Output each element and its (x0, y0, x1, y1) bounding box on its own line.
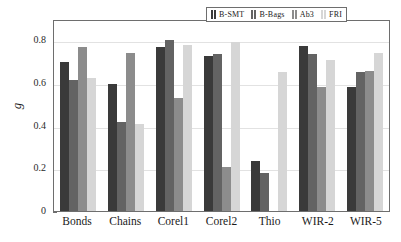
bar-group (150, 21, 198, 211)
y-tick-mark (53, 212, 57, 213)
bar[interactable] (222, 167, 231, 211)
y-tick-label: 0.6 (0, 77, 46, 88)
bar[interactable] (204, 56, 213, 211)
bar[interactable] (326, 60, 335, 211)
bar-groups (54, 21, 389, 211)
x-tick-label: WIR-2 (294, 215, 342, 227)
bar[interactable] (260, 173, 269, 211)
y-tick-label: 0.4 (0, 120, 46, 131)
bar[interactable] (78, 47, 87, 211)
plot-area (53, 20, 390, 212)
y-axis-label: g (9, 97, 25, 115)
bar[interactable] (251, 161, 260, 211)
legend-swatch-icon (292, 10, 297, 19)
legend-item: B-Bags (251, 10, 284, 19)
legend-label: Ab3 (300, 10, 314, 19)
legend-swatch-icon (211, 10, 216, 19)
legend: B-SMTB-BagsAb3FRI (206, 7, 347, 22)
bar[interactable] (165, 40, 174, 211)
y-tick-label: 0.8 (0, 34, 46, 45)
x-tick-label: Chains (101, 215, 149, 227)
bar[interactable] (174, 98, 183, 211)
bar[interactable] (87, 78, 96, 211)
legend-item: B-SMT (211, 10, 244, 19)
bar[interactable] (278, 72, 287, 211)
bar-group (293, 21, 341, 211)
y-tick-label: 0.2 (0, 162, 46, 173)
legend-swatch-icon (251, 10, 256, 19)
bar-group (198, 21, 246, 211)
bar[interactable] (60, 62, 69, 211)
bar[interactable] (213, 54, 222, 211)
bar[interactable] (69, 80, 78, 211)
bar[interactable] (126, 53, 135, 211)
legend-item: Ab3 (292, 10, 314, 19)
x-tick-label: Thio (246, 215, 294, 227)
bar[interactable] (356, 72, 365, 211)
bar[interactable] (317, 87, 326, 211)
bar[interactable] (108, 84, 117, 211)
x-tick-label: Corel1 (149, 215, 197, 227)
bar[interactable] (308, 54, 317, 211)
bar[interactable] (156, 47, 165, 211)
x-axis-tick-labels: BondsChainsCorel1Corel2ThioWIR-2WIR-5 (53, 215, 390, 227)
bar-chart-figure: g 00.20.40.60.8 BondsChainsCorel1Corel2T… (0, 0, 401, 242)
bar[interactable] (231, 42, 240, 211)
x-tick-label: Corel2 (197, 215, 245, 227)
bar-group (54, 21, 102, 211)
legend-item: FRI (321, 10, 342, 19)
legend-label: B-Bags (259, 10, 284, 19)
legend-swatch-icon (321, 10, 326, 19)
legend-label: FRI (329, 10, 342, 19)
bar[interactable] (117, 122, 126, 211)
legend-label: B-SMT (219, 10, 244, 19)
bar[interactable] (299, 46, 308, 211)
bar[interactable] (374, 53, 383, 211)
bar[interactable] (365, 71, 374, 211)
bar[interactable] (183, 45, 192, 211)
bar-group (245, 21, 293, 211)
bar-group (102, 21, 150, 211)
x-tick-label: Bonds (53, 215, 101, 227)
y-tick-label: 0 (0, 205, 46, 216)
bar-group (341, 21, 389, 211)
bar[interactable] (347, 87, 356, 211)
x-tick-label: WIR-5 (342, 215, 390, 227)
bar[interactable] (135, 124, 144, 211)
